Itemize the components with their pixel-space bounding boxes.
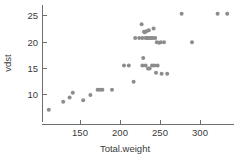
data-point (141, 56, 145, 60)
y-tick-label: 15 (27, 63, 38, 74)
data-point (160, 72, 164, 76)
x-tick-label: 250 (152, 127, 168, 138)
data-point (140, 22, 144, 26)
x-tick-label: 200 (112, 127, 128, 138)
chart-canvas: 15020025030010152025 Total.weight vdst (0, 0, 237, 160)
x-tick-label: 300 (192, 127, 208, 138)
data-point (100, 88, 104, 92)
data-point (153, 36, 157, 40)
axes-group (42, 5, 234, 124)
data-point (152, 27, 156, 31)
data-point (225, 12, 229, 16)
data-point (148, 67, 152, 71)
data-points-group (47, 12, 229, 112)
data-point (71, 91, 75, 95)
data-point (156, 63, 160, 67)
tick-labels-group: 15020025030010152025 (27, 10, 208, 138)
x-tick-label: 150 (72, 127, 88, 138)
data-point (61, 100, 65, 104)
data-point (47, 108, 51, 112)
y-tick-label: 10 (27, 89, 38, 100)
data-point (144, 63, 148, 67)
data-point (81, 98, 85, 102)
y-tick-label: 20 (27, 37, 38, 48)
data-point (132, 80, 136, 84)
data-point (154, 71, 158, 75)
scatter-plot-figure: 15020025030010152025 Total.weight vdst (0, 0, 237, 160)
data-point (110, 88, 114, 92)
data-point (180, 12, 184, 16)
data-point (190, 40, 194, 44)
data-point (147, 28, 151, 32)
data-point (162, 40, 166, 44)
y-tick-label: 25 (27, 10, 38, 21)
ticks-group (42, 16, 200, 124)
data-point (88, 93, 92, 97)
data-point (133, 36, 137, 40)
data-point (122, 63, 126, 67)
data-point (68, 96, 72, 100)
data-point (216, 12, 220, 16)
data-point (127, 63, 131, 67)
y-axis-title: vdst (2, 54, 13, 72)
x-axis-title: Total.weight (100, 143, 151, 154)
data-point (165, 72, 169, 76)
